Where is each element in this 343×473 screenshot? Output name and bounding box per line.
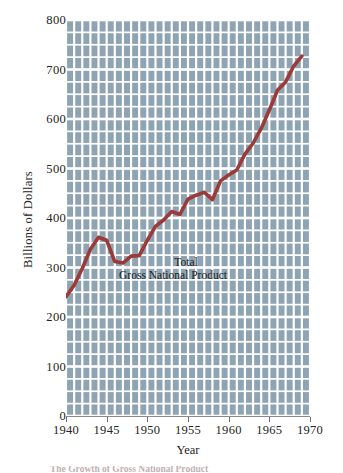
y-tick-label: 500	[12, 161, 66, 176]
plot-area	[66, 20, 310, 416]
x-tick-mark	[269, 417, 270, 422]
x-tick-mark	[66, 417, 67, 422]
y-tick-label: 0	[12, 409, 66, 424]
y-tick-label: 300	[12, 260, 66, 275]
x-tick-mark	[229, 417, 230, 422]
clipped-caption: The Growth of Gross National Product	[0, 466, 343, 473]
x-tick-mark	[107, 417, 108, 422]
y-tick-label: 400	[12, 211, 66, 226]
clipped-caption-text: The Growth of Gross National Product	[50, 466, 208, 473]
x-tick-label: 1970	[280, 423, 340, 438]
y-tick-label: 700	[12, 62, 66, 77]
y-tick-label: 600	[12, 112, 66, 127]
y-tick-label: 100	[12, 359, 66, 374]
y-tick-label: 200	[12, 310, 66, 325]
x-tick-mark	[147, 417, 148, 422]
plot-svg	[66, 20, 310, 416]
x-tick-mark	[188, 417, 189, 422]
x-tick-mark	[310, 417, 311, 422]
chart-figure: Billions of Dollars 01002003004005006007…	[0, 0, 343, 473]
x-axis-title: Year	[66, 443, 310, 458]
y-tick-label: 800	[12, 13, 66, 28]
gnp-line-series	[66, 56, 302, 297]
